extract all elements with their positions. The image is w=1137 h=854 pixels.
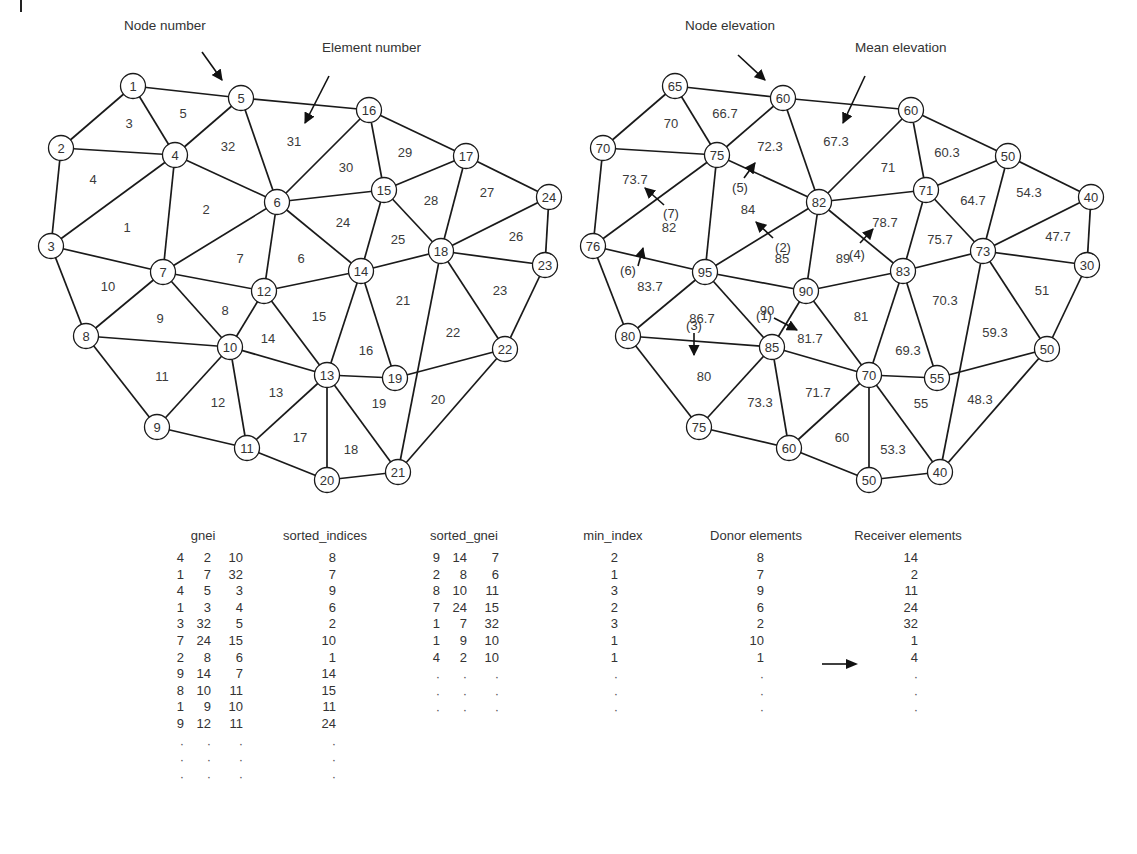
left-node-label: 23: [538, 258, 552, 273]
right-element-label: 82: [662, 220, 676, 235]
left-node: 5: [229, 86, 254, 111]
left-node-label: 2: [57, 141, 64, 156]
flow-arrow-icon: [774, 318, 797, 330]
right-element-label: 71.7: [805, 385, 830, 400]
right-node: 75: [687, 415, 712, 440]
ellipsis-dot: ·: [459, 702, 499, 718]
left-node: 19: [383, 366, 408, 391]
right-node-label: 50: [1001, 149, 1015, 164]
right-node-label: 95: [698, 265, 712, 280]
left-edge-10-13: [230, 347, 327, 375]
left-edge-1-5: [133, 86, 241, 98]
right-node-label: 55: [930, 371, 944, 386]
right-node-label: 40: [933, 465, 947, 480]
right-node-label: 50: [862, 473, 876, 488]
left-node-label: 4: [171, 148, 178, 163]
left-element-label: 14: [261, 331, 275, 346]
flow-step-label: (6): [620, 263, 636, 278]
table-cell: 9: [296, 583, 336, 599]
left-node: 4: [163, 143, 188, 168]
table-cell: 1: [578, 650, 618, 666]
right-node-label: 75: [710, 148, 724, 163]
left-element-label: 32: [221, 139, 235, 154]
left-edge-14-19: [361, 271, 395, 378]
right-edge-4-7: [705, 155, 717, 272]
right-node-label: 60: [904, 103, 918, 118]
right-element-label: 72.3: [757, 139, 782, 154]
elevation-mesh: 82847073.766.789859086.783.78073.371.781…: [581, 18, 1104, 493]
table-cell: 15: [459, 600, 499, 616]
table-cell: 4: [203, 600, 243, 616]
table-cell: 10: [459, 650, 499, 666]
table-cell: 32: [203, 567, 243, 583]
table-cell: 6: [724, 600, 764, 616]
left-element-label: 20: [431, 392, 445, 407]
right-edge-5-16: [783, 98, 911, 110]
table-cell: 10: [203, 699, 243, 715]
right-element-label: 73.7: [622, 172, 647, 187]
table-cell: 24: [296, 716, 336, 732]
right-edge-21-22: [940, 349, 1047, 472]
left-element-label: 30: [339, 160, 353, 175]
right-node: 65: [663, 74, 688, 99]
ellipsis-dot: ·: [203, 736, 243, 752]
left-element-label: 12: [211, 395, 225, 410]
left-node: 16: [357, 98, 382, 123]
right-edge-3-8: [593, 246, 628, 336]
right-edge-6-15: [819, 190, 926, 202]
left-edge-3-4: [51, 155, 175, 246]
left-node: 11: [235, 436, 260, 461]
right-edge-6-7: [705, 202, 819, 272]
flow-step-label: (3): [686, 318, 702, 333]
right-node-label: 71: [919, 183, 933, 198]
ellipsis-dot: ·: [578, 702, 618, 718]
left-node-label: 16: [362, 103, 376, 118]
left-edge-3-8: [51, 246, 86, 336]
left-edge-4-6: [175, 155, 277, 202]
table-cell: 10: [203, 550, 243, 566]
right-edge-18-21: [940, 251, 983, 472]
sorting-tables: gnei 42101732453134332572415286914781011…: [0, 520, 1137, 854]
table-cell: 5: [203, 616, 243, 632]
ellipsis-dot: ·: [459, 686, 499, 702]
left-node-label: 22: [498, 342, 512, 357]
right-element-label: 70.3: [932, 293, 957, 308]
ellipsis-dot: ·: [203, 752, 243, 768]
left-edge-6-12: [264, 202, 277, 291]
right-node: 95: [693, 260, 718, 285]
table-cell: 1: [724, 650, 764, 666]
right-edge-12-14: [806, 271, 903, 291]
table-cell: 8: [724, 550, 764, 566]
flow-step-label: (4): [849, 247, 865, 262]
left-element-label: 29: [398, 145, 412, 160]
left-element-label: 22: [446, 325, 460, 340]
left-edge-13-14: [327, 271, 361, 375]
ellipsis-dot: ·: [724, 686, 764, 702]
left-element-label: 9: [156, 311, 163, 326]
left-node: 2: [49, 136, 74, 161]
table-cell: 1: [578, 567, 618, 583]
left-edge-9-10: [157, 347, 230, 427]
left-element-label: 8: [221, 303, 228, 318]
table-cell: 2: [578, 600, 618, 616]
left-edge-18-21: [398, 251, 441, 472]
left-element-label: 5: [179, 106, 186, 121]
right-node: 50: [857, 468, 882, 493]
right-edge-9-10: [699, 347, 772, 427]
left-element-label: 1: [123, 220, 130, 235]
left-element-label: 18: [344, 442, 358, 457]
left-element-label: 25: [391, 232, 405, 247]
right-edge-14-19: [903, 271, 937, 378]
right-node: 60: [899, 98, 924, 123]
left-element-label: 27: [480, 185, 494, 200]
ellipsis-dot: ·: [578, 669, 618, 685]
right-node: 90: [794, 279, 819, 304]
right-element-label: 51: [1035, 283, 1049, 298]
left-element-label: 24: [336, 215, 350, 230]
right-edge-10-11: [772, 347, 789, 448]
right-node: 82: [807, 190, 832, 215]
right-node-label: 76: [586, 239, 600, 254]
left-node: 20: [315, 468, 340, 493]
receiver-elements-header: Receiver elements: [854, 528, 962, 543]
right-element-label: 83.7: [637, 279, 662, 294]
